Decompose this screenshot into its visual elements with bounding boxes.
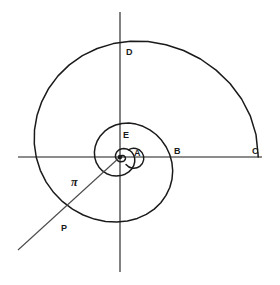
point-label-d: D <box>126 48 133 57</box>
point-label-c: C <box>252 147 259 156</box>
point-label-a: A <box>134 149 141 158</box>
point-label-e: E <box>123 131 129 140</box>
point-label-p: P <box>61 224 67 233</box>
point-label-b: B <box>174 147 181 156</box>
archimedean-spiral-curve <box>34 41 258 222</box>
origin-point <box>118 155 123 160</box>
radius-ray <box>18 157 120 250</box>
spiral-figure: A B C D E P π <box>0 0 280 285</box>
angle-theta-label: π <box>71 176 78 188</box>
spiral-drawing-canvas <box>0 0 280 285</box>
